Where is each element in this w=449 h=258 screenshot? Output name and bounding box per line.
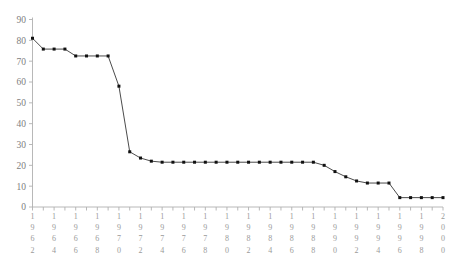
x-axis-label-digit: 7 [160, 234, 164, 243]
x-axis-label-digit: 8 [311, 234, 315, 243]
x-axis-label-digit: 1 [225, 212, 229, 221]
x-axis-label-digit: 2 [441, 212, 445, 221]
x-axis-label-digit: 1 [139, 212, 143, 221]
x-axis-label-digit: 6 [182, 246, 186, 255]
x-axis-label-digit: 1 [355, 212, 359, 221]
data-point-marker [117, 85, 120, 88]
data-point-marker [442, 196, 445, 199]
data-point-marker [323, 164, 326, 167]
x-axis-label-digit: 9 [333, 234, 337, 243]
data-point-marker [366, 182, 369, 185]
data-point-marker [63, 48, 66, 51]
y-axis-tick-label: 60 [17, 77, 27, 87]
data-point-marker [301, 161, 304, 164]
data-point-marker [85, 54, 88, 57]
x-axis-label-digit: 9 [117, 223, 121, 232]
x-axis-label-digit: 9 [355, 234, 359, 243]
x-axis-label-digit: 1 [52, 212, 56, 221]
chart-container: 0102030405060708090 19621964196619681970… [0, 0, 449, 258]
y-axis-tick-label: 90 [17, 15, 27, 25]
x-axis-label-digit: 9 [311, 223, 315, 232]
x-axis-label-digit: 0 [441, 246, 445, 255]
data-point-marker [31, 37, 34, 40]
x-axis-label-digit: 6 [398, 246, 402, 255]
y-axis-tick-label: 40 [17, 119, 27, 129]
x-axis-label-digit: 9 [419, 223, 423, 232]
x-axis-label-digit: 0 [333, 246, 337, 255]
data-point-marker [171, 161, 174, 164]
x-axis-tick-label: 1982 [247, 212, 251, 255]
data-point-marker [182, 161, 185, 164]
x-axis-tick-label: 1984 [268, 212, 272, 255]
y-axis-tick-label: 20 [17, 161, 27, 171]
data-point-marker [236, 161, 239, 164]
x-axis-label-digit: 8 [268, 234, 272, 243]
x-axis-tick-label: 1966 [74, 212, 78, 255]
x-axis-label-digit: 0 [441, 223, 445, 232]
x-axis-tick-label: 1994 [376, 212, 380, 255]
x-axis-tick-label: 1992 [355, 212, 359, 255]
x-axis-label-digit: 9 [355, 223, 359, 232]
y-axis-tick-label: 30 [17, 140, 27, 150]
data-point-marker [53, 48, 56, 51]
x-axis-label-digit: 1 [290, 212, 294, 221]
x-axis-label-digit: 1 [333, 212, 337, 221]
x-axis-tick-label: 1976 [182, 212, 186, 255]
x-axis-label-digit: 9 [95, 223, 99, 232]
x-axis-label-digit: 1 [398, 212, 402, 221]
y-axis-tick-label: 80 [17, 36, 27, 46]
x-axis-label-digit: 8 [419, 246, 423, 255]
data-point-marker [279, 161, 282, 164]
data-point-marker [225, 161, 228, 164]
x-axis-label-digit: 2 [31, 246, 35, 255]
y-axis-tick-label: 50 [17, 98, 27, 108]
x-axis-tick-label: 1972 [139, 212, 143, 255]
data-point-marker [215, 161, 218, 164]
x-axis-label-digit: 1 [117, 212, 121, 221]
data-point-marker [128, 150, 131, 153]
x-axis-label-digit: 9 [52, 223, 56, 232]
x-axis-label-digit: 8 [311, 246, 315, 255]
x-axis-label-digit: 1 [419, 212, 423, 221]
data-point-marker [398, 196, 401, 199]
data-point-marker [312, 161, 315, 164]
data-point-marker [344, 175, 347, 178]
x-axis-label-digit: 1 [247, 212, 251, 221]
data-point-marker [333, 170, 336, 173]
x-axis-tick-label: 1968 [95, 212, 99, 255]
x-axis-tick-label: 1974 [160, 212, 164, 255]
x-axis-label-digit: 4 [376, 246, 380, 255]
x-axis-tick-label: 2000 [441, 212, 445, 255]
x-axis-label-digit: 6 [52, 234, 56, 243]
data-point-marker [355, 179, 358, 182]
x-axis-label-digit: 1 [203, 212, 207, 221]
x-axis-tick-label: 1970 [117, 212, 121, 255]
data-point-marker [150, 160, 153, 163]
x-axis: 1962196419661968197019721974197619781980… [31, 207, 446, 255]
data-point-marker [247, 161, 250, 164]
plot-area [31, 37, 445, 199]
x-axis-label-digit: 2 [247, 246, 251, 255]
x-axis-label-digit: 0 [117, 246, 121, 255]
y-axis: 0102030405060708090 [17, 15, 33, 213]
x-axis-label-digit: 4 [52, 246, 56, 255]
data-point-marker [377, 182, 380, 185]
data-point-marker [107, 54, 110, 57]
y-axis-tick-label: 70 [17, 57, 27, 67]
x-axis-tick-label: 1986 [290, 212, 294, 255]
x-axis-label-digit: 9 [225, 223, 229, 232]
x-axis-tick-label: 1996 [398, 212, 402, 255]
x-axis-label-digit: 1 [311, 212, 315, 221]
x-axis-label-digit: 1 [268, 212, 272, 221]
x-axis-label-digit: 7 [117, 234, 121, 243]
data-point-marker [204, 161, 207, 164]
x-axis-label-digit: 9 [333, 223, 337, 232]
x-axis-label-digit: 1 [376, 212, 380, 221]
x-axis-label-digit: 1 [74, 212, 78, 221]
x-axis-label-digit: 6 [95, 234, 99, 243]
x-axis-label-digit: 9 [419, 234, 423, 243]
x-axis-label-digit: 2 [139, 246, 143, 255]
x-axis-label-digit: 9 [74, 223, 78, 232]
x-axis-label-digit: 8 [225, 234, 229, 243]
x-axis-tick-label: 1964 [52, 212, 56, 255]
